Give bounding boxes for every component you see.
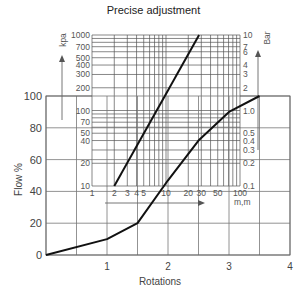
inset-x-axis-label: m,m: [234, 197, 251, 207]
inset-x-tick-label: 5: [141, 188, 146, 198]
inset-y-right-tick-label: 1.0: [243, 106, 255, 116]
inset-y-right-tick-label: 0.2: [243, 158, 255, 168]
inset-x-tick-label: 50: [213, 188, 223, 198]
y-tick-label: 100: [24, 90, 42, 102]
x-tick-label: 2: [165, 261, 171, 272]
x-tick-label: 4: [287, 261, 293, 272]
inset-y-left-tick-label: 50: [81, 128, 91, 138]
inset-y-right-tick-label: 3: [243, 69, 248, 79]
inset-right-axis-label: Bar: [262, 31, 272, 44]
inset-y-left-tick-label: 100: [76, 106, 90, 116]
inset-x-tick-label: 2: [112, 188, 117, 198]
chart-canvas: 0204060801001234RotationsFlow %102040507…: [0, 0, 307, 299]
x-tick-label: 1: [104, 261, 110, 272]
inset-y-left-tick-label: 70: [81, 117, 91, 127]
inset-x-tick-label: 1: [90, 188, 95, 198]
inset-y-right-tick-label: 10: [243, 30, 253, 40]
arrow-right-icon: [198, 200, 205, 206]
inset-x-tick-label: 4: [134, 188, 139, 198]
inset-y-left-tick-label: 500: [76, 53, 90, 63]
inset-y-right-tick-label: 2: [243, 83, 248, 93]
arrow-up-icon: [59, 55, 65, 62]
inset-left-axis-label: kpa: [58, 33, 68, 47]
y-tick-label: 60: [30, 154, 42, 166]
arrow-up-icon: [255, 50, 261, 57]
y-tick-label: 20: [30, 217, 42, 229]
inset-y-right-tick-label: 0.3: [243, 145, 255, 155]
inset-y-left-tick-label: 700: [76, 42, 90, 52]
inset-y-left-tick-label: 20: [81, 158, 91, 168]
y-tick-label: 0: [36, 249, 42, 261]
x-tick-label: 3: [226, 261, 232, 272]
inset-x-tick-label: 20: [184, 188, 194, 198]
inset-y-left-tick-label: 300: [76, 69, 90, 79]
y-tick-label: 80: [30, 122, 42, 134]
inset-x-tick-label: 30: [197, 188, 207, 198]
inset-y-left-tick-label: 1000: [71, 30, 90, 40]
inset-y-right-tick-label: 0.5: [243, 128, 255, 138]
inset-x-tick-label: 10: [161, 188, 171, 198]
y-axis-label: Flow %: [13, 163, 24, 196]
inset-y-right-tick-label: 7: [243, 42, 248, 52]
x-axis-label: Rotations: [139, 276, 181, 287]
inset-y-right-tick-label: 4: [243, 60, 248, 70]
inset-y-left-tick-label: 200: [76, 83, 90, 93]
inset-x-tick-label: 3: [125, 188, 130, 198]
y-tick-label: 40: [30, 185, 42, 197]
